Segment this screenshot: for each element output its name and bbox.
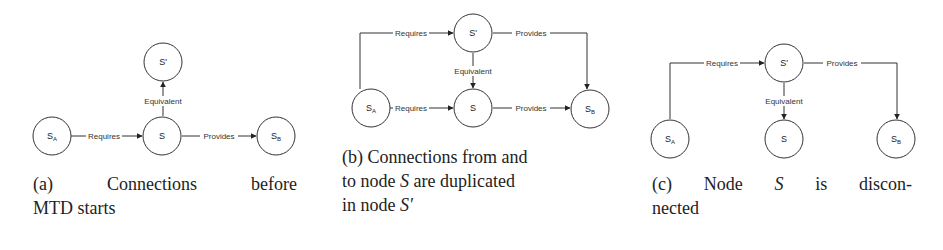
caption-c-word: is	[815, 172, 827, 196]
edge-label-b-equivalent: Equivalent	[454, 67, 492, 76]
caption-c: (c) Node S is discon- nected	[652, 172, 912, 220]
caption-b-line3: in node S′	[342, 193, 606, 217]
caption-c-line2: nected	[652, 196, 912, 220]
edge-b-sprime-to-sb	[493, 33, 587, 89]
edge-label-a-provides: Provides	[203, 132, 234, 141]
edge-label-b-requires-bottom: Requires	[395, 104, 427, 113]
caption-a-word: before	[251, 172, 297, 196]
caption-c-word: Node	[704, 172, 743, 196]
caption-a-word: Connections	[107, 172, 197, 196]
caption-b-line2: to node S are duplicated	[342, 169, 606, 193]
caption-b: (b) Connections from and to node S are d…	[342, 145, 606, 217]
caption-b-line1: (b) Connections from and	[342, 145, 606, 169]
node-label-b-sprime: S'	[469, 28, 477, 38]
node-label-b-s: S	[470, 103, 476, 113]
caption-a: (a) Connections before MTD starts	[33, 172, 297, 220]
edge-b-sa-to-sprime	[360, 33, 453, 89]
caption-a-line2: MTD starts	[33, 196, 297, 220]
node-label-c-s: S	[781, 134, 787, 144]
caption-c-word: discon-	[859, 172, 912, 196]
node-label-a-sprime: S'	[159, 57, 167, 67]
node-label-c-sprime: S'	[780, 58, 788, 68]
node-label-a-s: S	[159, 131, 165, 141]
caption-c-line1: (c) Node S is discon-	[652, 172, 912, 196]
caption-a-label: (a)	[33, 172, 53, 196]
edge-label-c-equivalent: Equivalent	[765, 97, 803, 106]
caption-b-var-sprime: S′	[400, 195, 413, 215]
edge-label-c-requires: Requires	[706, 59, 738, 68]
edge-label-a-equivalent: Equivalent	[144, 97, 182, 106]
caption-c-var-s: S	[774, 172, 783, 196]
caption-b-var-s: S	[400, 171, 409, 191]
caption-a-line1: (a) Connections before	[33, 172, 297, 196]
edge-c-sa-to-sprime	[670, 63, 764, 119]
caption-c-label: (c)	[652, 172, 672, 196]
edge-label-b-provides-bottom: Provides	[515, 104, 546, 113]
edge-label-c-provides: Provides	[826, 59, 857, 68]
edge-label-a-requires: Requires	[88, 132, 120, 141]
edge-c-sprime-to-sb	[804, 63, 897, 119]
edge-label-b-requires-top: Requires	[395, 29, 427, 38]
edge-label-b-provides-top: Provides	[515, 29, 546, 38]
